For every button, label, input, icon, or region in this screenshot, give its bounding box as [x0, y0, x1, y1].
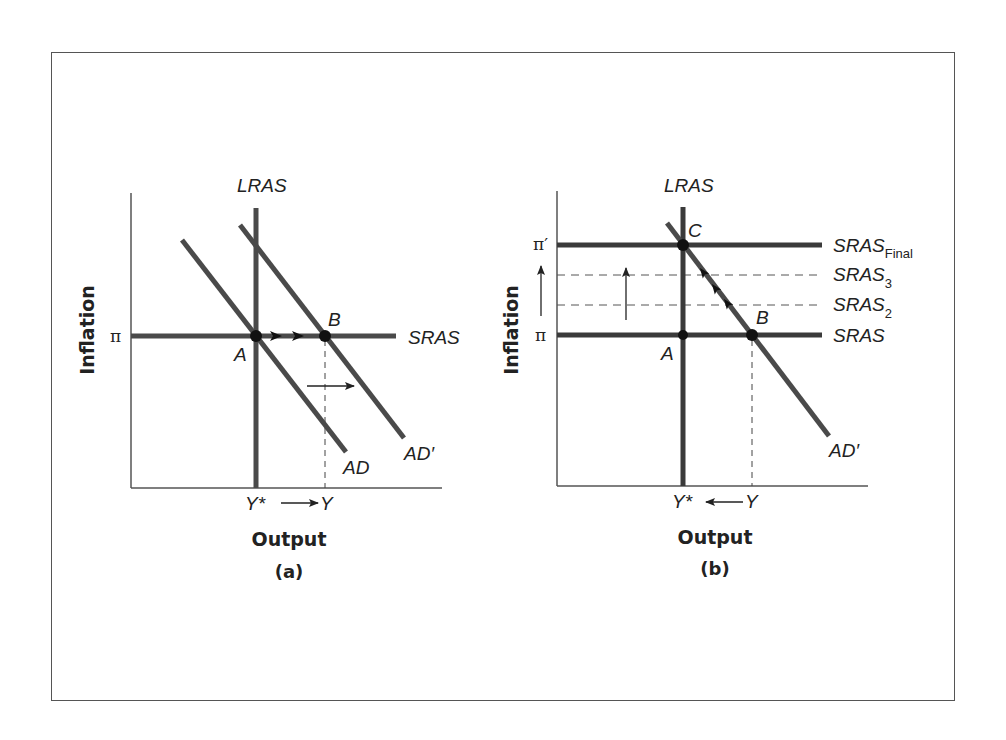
panel-b-y-tick-pi-prime: π′ — [533, 234, 548, 254]
panel-a-ad-label: AD — [342, 457, 370, 478]
panel-a-point-b-label: B — [328, 309, 341, 330]
panel-b-point-a — [678, 330, 688, 340]
figure-canvas: LRAS SRAS AD AD′ A B π Y* Y Output (a) I… — [0, 0, 1006, 740]
panel-b-ad-prime-label: AD′ — [828, 440, 860, 461]
panel-b: LRAS SRASFinal SRAS3 SRAS2 SRAS AD′ C A … — [500, 175, 913, 579]
panel-a-x-tick-ystar: Y* — [245, 493, 266, 514]
panel-b-y-axis-title: Inflation — [500, 285, 522, 375]
panel-b-sras2-label: SRAS2 — [833, 294, 892, 321]
panel-a-ad-prime-label: AD′ — [403, 443, 435, 464]
panel-b-sras3-label: SRAS3 — [833, 264, 892, 291]
panel-b-point-b-label: B — [756, 307, 769, 328]
panel-a-point-a — [250, 330, 262, 342]
panel-b-y-tick-pi: π — [535, 325, 546, 345]
panel-b-sras-final-label: SRASFinal — [833, 235, 913, 261]
panel-a-caption: (a) — [275, 561, 304, 582]
panel-a-lras-label: LRAS — [237, 175, 287, 196]
panel-b-x-tick-ystar: Y* — [672, 491, 693, 512]
panel-a-y-axis-title: Inflation — [76, 285, 98, 375]
panel-a-point-a-label: A — [233, 344, 247, 365]
panel-a-ad-curve — [182, 240, 346, 452]
panel-a-sras-label: SRAS — [408, 327, 460, 348]
panel-a-x-tick-y: Y — [320, 493, 334, 514]
panel-b-x-axis-title: Output — [678, 526, 753, 548]
panel-a-y-tick-pi: π — [110, 326, 121, 346]
panel-a-point-b — [319, 330, 331, 342]
panel-b-sras-label: SRAS — [833, 325, 885, 346]
panel-b-lras-label: LRAS — [664, 175, 714, 196]
panel-b-x-tick-y: Y — [745, 491, 759, 512]
panel-b-point-c-label: C — [688, 220, 702, 241]
panel-b-caption: (b) — [700, 558, 729, 579]
panel-b-point-a-label: A — [660, 343, 674, 364]
panel-b-point-b — [746, 329, 758, 341]
panel-a-x-axis-title: Output — [252, 528, 327, 550]
panel-a: LRAS SRAS AD AD′ A B π Y* Y Output (a) I… — [76, 175, 460, 582]
panel-b-ad-prime-curve — [667, 223, 829, 436]
